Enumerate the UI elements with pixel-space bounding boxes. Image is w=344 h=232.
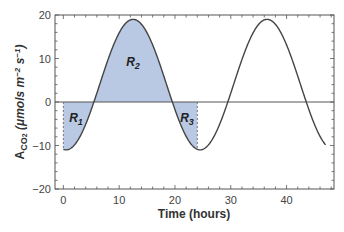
x-tick-label: 0 — [60, 194, 66, 206]
y-tick-label: 20 — [39, 9, 51, 21]
y-tick-label: −20 — [32, 183, 51, 195]
y-tick-label: −10 — [32, 140, 51, 152]
x-tick-label: 40 — [280, 194, 292, 206]
y-axis-title: ACO2 (μmols m−2 s−1) — [13, 45, 29, 160]
x-axis-title: Time (hours) — [158, 207, 230, 221]
x-tick-label: 20 — [169, 194, 181, 206]
y-tick-label: 10 — [39, 53, 51, 65]
chart: 010203040−20−1001020 R1R2R3 Time (hours)… — [0, 0, 344, 232]
x-tick-label: 10 — [113, 194, 125, 206]
x-tick-label: 30 — [225, 194, 237, 206]
y-tick-label: 0 — [45, 96, 51, 108]
